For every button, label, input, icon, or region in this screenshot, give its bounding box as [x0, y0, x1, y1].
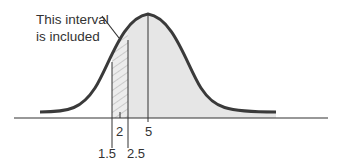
- label-lower-bound: 1.5: [98, 146, 116, 161]
- label-mean: 5: [145, 124, 152, 139]
- label-value: 2: [116, 124, 123, 139]
- hatched-interval: [112, 0, 128, 118]
- annotation-line1: This interval: [36, 12, 109, 27]
- normal-curve-diagram: This interval is included 1.5 2 2.5 5: [0, 0, 341, 164]
- label-upper-bound: 2.5: [127, 146, 145, 161]
- annotation-line2: is included: [36, 29, 100, 44]
